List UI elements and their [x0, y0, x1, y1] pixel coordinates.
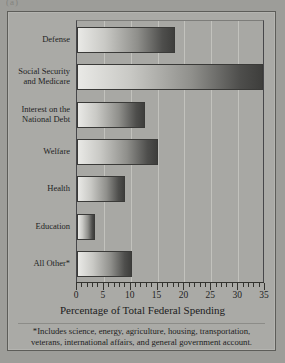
tick-minor [216, 283, 217, 287]
tick-minor [253, 283, 254, 287]
x-axis-title: Percentage of Total Federal Spending [8, 304, 277, 316]
bar [77, 214, 95, 240]
tick-major [183, 283, 184, 290]
tick-minor [124, 283, 125, 287]
tick-minor [151, 283, 152, 287]
bar [77, 139, 158, 165]
category-label: Education [6, 221, 70, 231]
x-axis-tick-labels: 05101520253035 [76, 290, 264, 304]
bar [77, 64, 263, 90]
tick-minor [259, 283, 260, 287]
cropped-figure-label: (a) [6, 0, 19, 7]
tick-minor [162, 283, 163, 287]
category-label: Interest on the National Debt [6, 104, 70, 124]
tick-major [103, 283, 104, 290]
tick-label: 5 [100, 290, 105, 300]
tick-minor [248, 283, 249, 287]
tick-minor [108, 283, 109, 287]
plot-region [76, 20, 264, 282]
bar-row [77, 27, 263, 53]
tick-minor [232, 283, 233, 287]
tick-major [210, 283, 211, 290]
tick-minor [243, 283, 244, 287]
bar [77, 251, 132, 277]
tick-minor [114, 283, 115, 287]
tick-label: 15 [152, 290, 162, 300]
tick-minor [173, 283, 174, 287]
category-axis-labels: DefenseSocial Security and MedicareInter… [8, 20, 74, 282]
x-axis-ticks [76, 282, 264, 289]
chart-plot-area: DefenseSocial Security and MedicareInter… [8, 12, 277, 288]
category-label: Defense [6, 34, 70, 44]
bar-row [77, 102, 263, 128]
tick-minor [87, 283, 88, 287]
tick-minor [194, 283, 195, 287]
tick-minor [221, 283, 222, 287]
tick-minor [92, 283, 93, 287]
bar-row [77, 139, 263, 165]
bar-row [77, 176, 263, 202]
tick-label: 30 [232, 290, 242, 300]
tick-major [264, 283, 265, 290]
chart-panel: DefenseSocial Security and MedicareInter… [7, 11, 276, 351]
tick-minor [167, 283, 168, 287]
bar-row [77, 251, 263, 277]
category-label: Health [6, 183, 70, 193]
tick-minor [140, 283, 141, 287]
tick-minor [97, 283, 98, 287]
tick-minor [81, 283, 82, 287]
tick-minor [119, 283, 120, 287]
tick-minor [226, 283, 227, 287]
bar [77, 102, 145, 128]
bar-row [77, 64, 263, 90]
tick-label: 25 [206, 290, 216, 300]
chart-page: (a) DefenseSocial Security and MedicareI… [0, 0, 285, 363]
bar [77, 176, 125, 202]
tick-minor [200, 283, 201, 287]
footnote-divider [18, 323, 265, 324]
tick-minor [189, 283, 190, 287]
bar [77, 27, 175, 53]
tick-label: 35 [259, 290, 269, 300]
tick-minor [135, 283, 136, 287]
footnote-text: *Includes science, energy, agriculture, … [20, 326, 263, 348]
tick-minor [178, 283, 179, 287]
category-label: Social Security and Medicare [6, 66, 70, 86]
category-label: All Other* [6, 258, 70, 268]
tick-major [237, 283, 238, 290]
tick-label: 20 [179, 290, 189, 300]
category-label: Welfare [6, 146, 70, 156]
tick-minor [146, 283, 147, 287]
tick-label: 10 [125, 290, 135, 300]
tick-label: 0 [74, 290, 79, 300]
tick-minor [205, 283, 206, 287]
tick-major [130, 283, 131, 290]
tick-major [157, 283, 158, 290]
bar-row [77, 214, 263, 240]
bar-rows [77, 21, 263, 282]
tick-major [76, 283, 77, 290]
